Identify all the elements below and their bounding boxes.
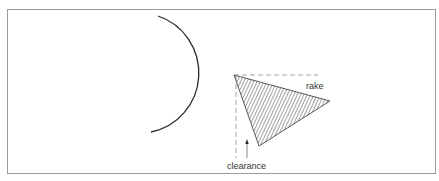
rake-label: rake: [306, 81, 324, 91]
diagram-frame: [8, 10, 436, 174]
clearance-label: clearance: [227, 161, 266, 171]
clearance-arrow-head-icon: [245, 139, 248, 144]
workpiece-arc: [151, 16, 199, 132]
diagram-canvas: rake clearance: [0, 0, 439, 181]
